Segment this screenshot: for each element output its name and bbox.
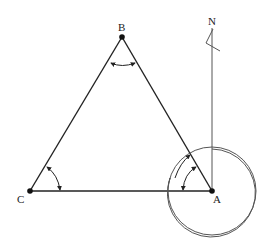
- angle-arc-b: [111, 63, 135, 66]
- point-c: [27, 188, 33, 194]
- angle-arc-a-inner: [183, 167, 196, 190]
- north-arrow-icon: [206, 29, 220, 51]
- label-c: C: [17, 193, 24, 205]
- diagram-canvas: B C A N: [0, 0, 272, 249]
- angle-arc-c: [47, 167, 60, 190]
- label-north: N: [208, 15, 216, 27]
- side-ba: [122, 37, 212, 191]
- side-bc: [30, 37, 122, 191]
- label-a: A: [213, 193, 221, 205]
- label-b: B: [118, 21, 125, 33]
- triangle-diagram: B C A N: [0, 0, 272, 249]
- point-b: [119, 34, 125, 40]
